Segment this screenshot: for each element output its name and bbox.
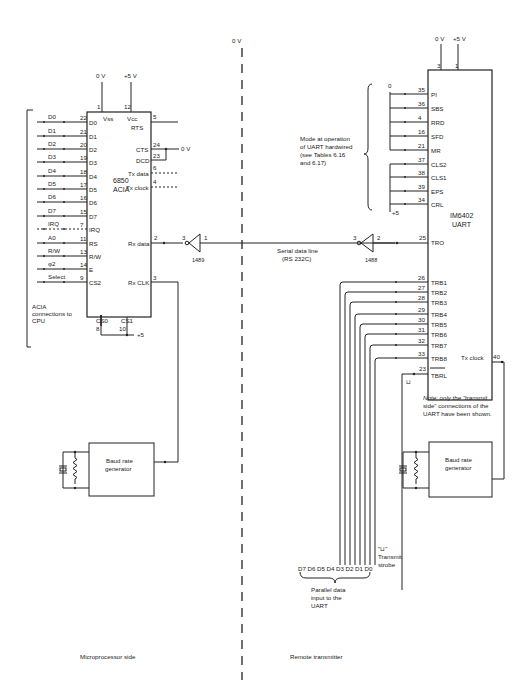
serial-line-standard: (RS 232C): [282, 255, 311, 262]
mode-note: of UART hardwired: [300, 143, 353, 150]
strobe-label: Transmit: [378, 553, 402, 560]
pin-number: 21: [418, 142, 425, 149]
pin-name: TRO: [431, 239, 444, 246]
uart-gnd-label: 0 V: [435, 35, 445, 42]
pin-name: Rx data: [128, 240, 150, 247]
bit-label: D7: [298, 565, 306, 572]
pin-name: Rx CLK: [128, 279, 150, 286]
mode-note: and 6.17): [300, 159, 326, 166]
pin-name: D6: [89, 199, 97, 206]
pin-number: 27: [418, 284, 425, 291]
pin-number: 31: [418, 326, 425, 333]
pin-name: E: [89, 266, 93, 273]
pin-name: RTS: [131, 124, 143, 131]
parallel-label: UART: [311, 602, 328, 609]
signal-label: R/W: [48, 247, 60, 254]
pin-name: TBRL: [431, 372, 447, 379]
baud-generator-left: Baud rate generator: [59, 443, 166, 496]
receiver-part: 1489: [192, 257, 204, 263]
pin-number: 18: [80, 168, 87, 175]
bracket-label: CPU: [32, 317, 45, 324]
pin-number: 23: [419, 365, 426, 372]
uart-trb-pins: 26TRB127TRB228TRB329TRB430TRB531TRB632TR…: [340, 274, 447, 565]
pin-name: D3: [89, 159, 97, 166]
uart-name: IM6402: [450, 212, 473, 219]
uart-note: UART have been shown.: [423, 410, 492, 417]
pin-name: PI: [431, 91, 437, 98]
pin-name: Vss: [103, 115, 113, 122]
signal-label: A0: [48, 234, 56, 241]
pin-number: 39: [418, 183, 425, 190]
signal-label: D4: [48, 167, 56, 174]
baud-label: Baud rate: [106, 457, 133, 464]
driver-1488: 3 2 1488: [353, 234, 428, 263]
pin-number: 20: [80, 141, 87, 148]
pin-number: 14: [80, 261, 87, 268]
bit-label: D4: [327, 565, 335, 572]
uart-chip: IM6402 UART 0 V +5 V 3 1 35PI36SBS4RRD16…: [300, 35, 504, 590]
pin-number: 1: [97, 103, 101, 110]
uart-mode-pins: 35PI36SBS4RRD16SFD21MR37CLS238CLS139EPS3…: [390, 86, 447, 212]
pin-number: 10: [119, 325, 126, 332]
mode-note: (see Tables 6.16: [300, 151, 346, 158]
baud-label: generator: [105, 465, 132, 472]
pin-number: 26: [418, 274, 425, 281]
cts-tie-label: 0 V: [181, 145, 191, 152]
pin-number: 37: [418, 156, 425, 163]
pin-number: 16: [80, 194, 87, 201]
pin-name: R/W: [89, 253, 101, 260]
acia-name: 6850: [113, 177, 129, 184]
pin-number: 3: [153, 274, 157, 281]
pin-number: 4: [153, 178, 157, 185]
signal-label: Select: [48, 273, 65, 280]
pin-name: SBS: [431, 105, 443, 112]
pin-name: CLS1: [431, 174, 447, 181]
pin-number: 11: [80, 235, 87, 242]
pin-name: RRD: [431, 119, 445, 126]
pin-number: 8: [96, 325, 100, 332]
pin-name: Vcc: [127, 115, 137, 122]
baud-label: generator: [445, 464, 472, 471]
pin-number: 9: [80, 274, 84, 281]
signal-label: D3: [48, 153, 56, 160]
parallel-brace: [300, 572, 370, 583]
acia-vss-label: 0 V: [96, 72, 106, 79]
parallel-data-bits: D7D6D5D4D3D2D1D0: [298, 565, 373, 572]
mode-high-label: +5: [392, 209, 400, 216]
pin-name: DCD: [136, 157, 150, 164]
cs-tie-label: +5: [137, 331, 145, 338]
pin-name: CTS: [136, 146, 148, 153]
pin-number: 23: [153, 152, 160, 159]
pin-name: D7: [89, 213, 97, 220]
parallel-label: input to the: [311, 594, 342, 601]
footer-right: Remote transmitter: [290, 653, 343, 660]
pin-name: Tx data: [128, 170, 149, 177]
resistor-icon: [73, 452, 77, 484]
bracket-label: connections to: [32, 310, 72, 317]
pin-number: 3: [182, 234, 186, 241]
pin-name: CS2: [89, 279, 102, 286]
pin-number: 21: [80, 128, 87, 135]
pin-number: 5: [153, 113, 157, 120]
mode-note: Mode at operation: [300, 135, 350, 142]
resistor-icon: [414, 452, 418, 484]
pin-number: 15: [80, 208, 87, 215]
pin-number: 25: [419, 234, 426, 241]
bracket-label: ACIA: [32, 303, 47, 310]
pin-number: 12: [124, 103, 131, 110]
mode-low-label: 0: [388, 82, 392, 89]
signal-label: D1: [48, 127, 56, 134]
pin-number: 2: [154, 234, 158, 241]
bit-label: D3: [336, 565, 344, 572]
pin-name: TRB3: [431, 299, 447, 306]
pin-number: 19: [80, 154, 87, 161]
acia-left-pins: D022D0D121D1D220D2D319D3D418D4D517D5D616…: [37, 113, 102, 286]
pin-name: Tx clock: [126, 184, 150, 191]
pin-name: Tx clock: [461, 354, 485, 361]
baud-generator-right: Baud rate generator: [399, 442, 492, 497]
driver-part: 1488: [365, 257, 377, 263]
pin-name: RS: [89, 240, 98, 247]
parallel-label: Parallel data: [311, 586, 346, 593]
pin-number: 1: [455, 62, 459, 69]
signal-label: D7: [48, 207, 56, 214]
